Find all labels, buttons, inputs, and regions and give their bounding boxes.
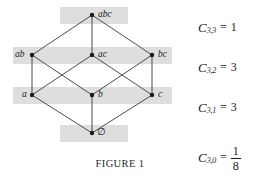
node-label-ac: ac: [98, 50, 107, 60]
equation-subscript: 3,0: [207, 156, 216, 165]
equation-symbol: C: [198, 101, 207, 114]
lattice-node-ac[interactable]: [90, 53, 94, 57]
figure-page: abcabacbcabc∅ FIGURE 1 C3,3=1C3,2=3C3,1=…: [0, 0, 276, 188]
figure-caption: FIGURE 1: [58, 158, 182, 169]
equation-subscript: 3,2: [207, 66, 216, 75]
lattice-node-empty[interactable]: [90, 131, 94, 135]
equals-sign: =: [220, 60, 227, 75]
equation-symbol: C: [198, 61, 207, 74]
equals-sign: =: [220, 100, 227, 115]
fraction-denominator: 8: [231, 159, 241, 172]
equation-subscript: 3,1: [207, 106, 216, 115]
equals-sign: =: [220, 150, 227, 165]
lattice-node-ab[interactable]: [30, 53, 34, 57]
equation-list: C3,3=1C3,2=3C3,1=3C3,0=18: [190, 0, 276, 188]
equation-row-2: C3,1=3: [198, 100, 237, 115]
equation-symbol: C: [198, 151, 207, 164]
node-label-b: b: [98, 90, 103, 100]
equals-sign: =: [220, 20, 227, 35]
equation-value: 1: [231, 20, 237, 35]
equation-fraction: 18: [231, 145, 241, 172]
equation-symbol: C: [198, 21, 207, 34]
node-label-c: c: [158, 90, 162, 100]
node-label-bc: bc: [158, 50, 167, 60]
fraction-numerator: 1: [231, 145, 241, 158]
node-label-ab: ab: [15, 50, 25, 60]
lattice-node-bc[interactable]: [150, 53, 154, 57]
equation-row-3: C3,0=18: [198, 144, 241, 171]
equation-subscript: 3,3: [207, 26, 216, 35]
node-label-empty: ∅: [97, 127, 106, 137]
equation-value: 3: [231, 60, 237, 75]
node-label-abc: abc: [98, 10, 112, 20]
equation-row-0: C3,3=1: [198, 20, 237, 35]
node-label-a: a: [22, 90, 27, 100]
equation-row-1: C3,2=3: [198, 60, 237, 75]
lattice-node-b[interactable]: [90, 93, 94, 97]
lattice-node-c[interactable]: [150, 93, 154, 97]
lattice-node-a[interactable]: [30, 93, 34, 97]
lattice-node-abc[interactable]: [90, 13, 94, 17]
equation-value: 3: [231, 100, 237, 115]
